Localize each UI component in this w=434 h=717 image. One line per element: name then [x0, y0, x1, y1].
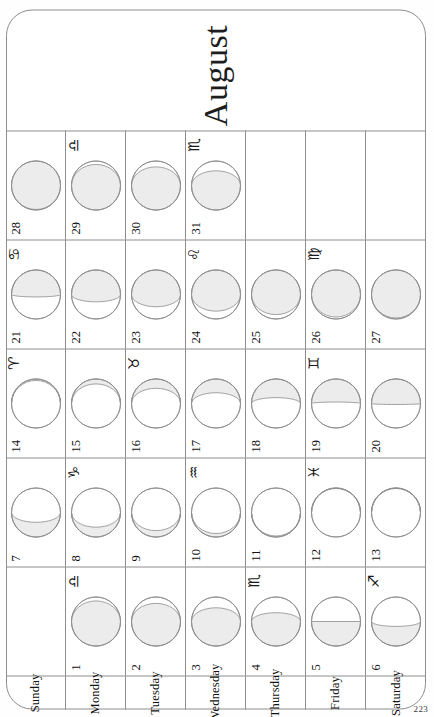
calendar-day-cell[interactable]: 30: [126, 130, 186, 239]
calendar-day-cell-empty: [6, 566, 66, 675]
month-title-panel-segment: [66, 20, 126, 130]
day-number: 30: [129, 222, 144, 235]
moon-phase-icon: [190, 159, 242, 211]
zodiac-sign-icon: ♐: [367, 574, 382, 587]
calendar-day-cell[interactable]: 19♊: [306, 348, 366, 457]
weekday-label-monday: Monday: [66, 675, 126, 709]
calendar-day-cell[interactable]: 28: [6, 130, 66, 239]
moon-phase-icon: [370, 595, 422, 647]
day-number: 12: [309, 549, 324, 562]
moon-phase-icon: [250, 486, 302, 538]
calendar-day-cell[interactable]: 14♈: [6, 348, 66, 457]
day-number: 6: [369, 664, 384, 670]
zodiac-sign-icon: ♍: [307, 247, 322, 260]
calendar-day-cell[interactable]: 22: [66, 239, 126, 348]
calendar-day-cell[interactable]: 26♍: [306, 239, 366, 348]
zodiac-sign-icon: ♎: [67, 574, 82, 587]
calendar-day-cell[interactable]: 9: [126, 457, 186, 566]
moon-phase-icon: [190, 268, 242, 320]
moon-phase-icon: [190, 486, 242, 538]
calendar-day-cell[interactable]: 13: [366, 457, 426, 566]
calendar-day-cell[interactable]: 20: [366, 348, 426, 457]
calendar-day-cell[interactable]: 10♒: [186, 457, 246, 566]
calendar-day-cell[interactable]: 11: [246, 457, 306, 566]
moon-phase-icon: [370, 377, 422, 429]
page-number: 223: [414, 704, 428, 714]
moon-phase-icon: [310, 486, 362, 538]
calendar-day-cell[interactable]: 25: [246, 239, 306, 348]
day-number: 31: [189, 222, 204, 235]
day-number: 25: [249, 331, 264, 344]
moon-phase-icon: [10, 268, 62, 320]
calendar-day-cell[interactable]: 24♌: [186, 239, 246, 348]
calendar-day-cell[interactable]: 7: [6, 457, 66, 566]
day-number: 10: [189, 549, 204, 562]
month-title-panel-segment: [6, 20, 66, 130]
calendar-day-cell[interactable]: 18: [246, 348, 306, 457]
day-number: 21: [9, 331, 24, 344]
day-number: 24: [189, 331, 204, 344]
zodiac-sign-icon: ♈: [7, 356, 22, 369]
calendar-day-cell[interactable]: 5: [306, 566, 366, 675]
calendar-day-cell[interactable]: 23: [126, 239, 186, 348]
moon-phase-icon: [130, 268, 182, 320]
calendar-day-cell[interactable]: 17: [186, 348, 246, 457]
day-number: 15: [69, 440, 84, 453]
calendar-day-cell[interactable]: 4♏: [246, 566, 306, 675]
calendar-day-cell[interactable]: 27: [366, 239, 426, 348]
calendar-day-cell[interactable]: 3: [186, 566, 246, 675]
calendar-day-cell[interactable]: 21♋: [6, 239, 66, 348]
weekday-label-sunday: Sunday: [6, 675, 66, 709]
moon-phase-icon: [370, 486, 422, 538]
calendar-day-cell[interactable]: 12♓: [306, 457, 366, 566]
calendar-day-cell[interactable]: 15: [66, 348, 126, 457]
day-number: 26: [309, 331, 324, 344]
day-number: 17: [189, 440, 204, 453]
calendar-day-cell[interactable]: 31♏: [186, 130, 246, 239]
weekday-label-friday: Friday: [306, 675, 366, 709]
calendar-day-cell[interactable]: 16♉: [126, 348, 186, 457]
weekday-label-tuesday: Tuesday: [126, 675, 186, 709]
calendar-day-cell[interactable]: 1♎: [66, 566, 126, 675]
day-number: 2: [129, 664, 144, 670]
zodiac-sign-icon: ♓: [307, 465, 322, 478]
calendar-day-cell[interactable]: 6♐: [366, 566, 426, 675]
month-title-panel-segment: [306, 20, 366, 130]
day-number: 16: [129, 440, 144, 453]
calendar-day-cell[interactable]: 29♎: [66, 130, 126, 239]
moon-phase-icon: [370, 268, 422, 320]
moon-phase-icon: [10, 377, 62, 429]
moon-phase-icon: [10, 159, 62, 211]
calendar-day-cell-empty: [366, 130, 426, 239]
calendar-page: Sunday 7 14♈ 21♋ 28Monday 1♎ 8♑: [0, 0, 434, 717]
moon-phase-icon: [70, 595, 122, 647]
day-number: 7: [9, 555, 24, 561]
moon-phase-icon: [130, 595, 182, 647]
day-number: 3: [189, 664, 204, 670]
day-number: 1: [69, 664, 84, 670]
calendar-day-cell[interactable]: 2: [126, 566, 186, 675]
moon-phase-icon: [70, 486, 122, 538]
calendar-grid: Sunday 7 14♈ 21♋ 28Monday 1♎ 8♑: [6, 9, 426, 709]
day-number: 14: [9, 440, 24, 453]
zodiac-sign-icon: ♉: [127, 356, 142, 369]
moon-phase-icon: [190, 595, 242, 647]
moon-phase-icon: [250, 268, 302, 320]
month-title: August: [197, 24, 235, 125]
day-number: 28: [9, 222, 24, 235]
day-number: 5: [309, 664, 324, 670]
month-title-panel-segment: [366, 20, 426, 130]
day-number: 4: [249, 664, 264, 670]
zodiac-sign-icon: ♑: [67, 465, 82, 478]
zodiac-sign-icon: ♊: [307, 356, 322, 369]
calendar-day-cell-empty: [246, 130, 306, 239]
zodiac-sign-icon: ♏: [247, 574, 262, 587]
month-title-panel-segment: August: [186, 20, 246, 130]
moon-phase-icon: [10, 486, 62, 538]
day-number: 8: [69, 555, 84, 561]
day-number: 13: [369, 549, 384, 562]
calendar-day-cell-empty: [306, 130, 366, 239]
calendar-day-cell[interactable]: 8♑: [66, 457, 126, 566]
zodiac-sign-icon: ♎: [67, 138, 82, 151]
moon-phase-icon: [70, 377, 122, 429]
